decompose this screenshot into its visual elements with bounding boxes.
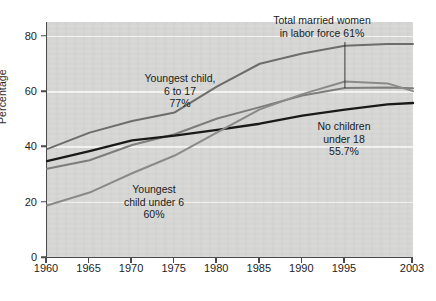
x-tick-label: 1970: [119, 262, 143, 274]
x-tick-label: 1985: [247, 262, 271, 274]
annotation-no-children-under-18: No children under 18 55.7%: [317, 120, 370, 158]
x-tick-label: 2003: [400, 262, 424, 274]
annotation-youngest-child-6-to-17: Youngest child, 6 to 17 77%: [145, 72, 216, 110]
x-tick-label: 1965: [76, 262, 100, 274]
y-tick-label: 80: [7, 30, 37, 42]
y-tick-label: 60: [7, 85, 37, 97]
x-tick-label: 1975: [161, 262, 185, 274]
x-tick-label: 1995: [332, 262, 356, 274]
annotation-youngest-child-under-6: Youngest child under 6 60%: [124, 183, 184, 221]
x-tick-label: 1980: [204, 262, 228, 274]
x-tick-label: 1990: [289, 262, 313, 274]
y-tick-label: 20: [7, 196, 37, 208]
annotation-total-married-women: Total married women in labor force 61%: [273, 14, 370, 39]
x-tick-label: 1960: [34, 262, 58, 274]
chart-container: Percentage 020406080 1960196519701975198…: [0, 0, 436, 301]
y-tick-label: 40: [7, 140, 37, 152]
y-tick-label: 0: [7, 251, 37, 263]
